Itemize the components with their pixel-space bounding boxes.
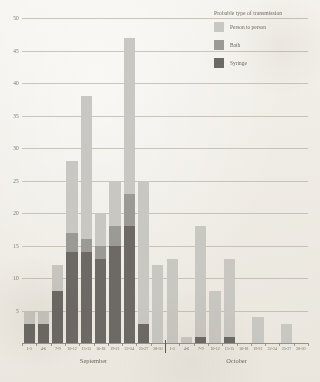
bar[interactable] [152,265,163,343]
bar-segment-bath [66,233,77,253]
x-axis-tick-label: 10-12 [210,346,220,351]
bar-segment-person [109,181,120,227]
bar[interactable] [109,181,120,344]
legend: Probable type of transmission Person to … [214,10,318,76]
bar-segment-syringe [81,252,92,343]
x-axis-tick-label: 10-12 [67,346,77,351]
bar-segment-person [52,265,63,291]
bar[interactable] [167,259,178,344]
y-axis-tick-label: 25 [13,178,19,184]
y-axis-tick-label: 40 [13,80,19,86]
x-axis-tick-label: 7-9 [198,346,203,351]
bar-segment-person [281,324,292,344]
x-axis-tick-label: 22-24 [124,346,134,351]
bar-segment-bath [81,239,92,252]
bar-segment-bath [124,194,135,227]
bar-segment-person [38,311,49,324]
month-group-labels: SeptemberOctober [22,357,308,371]
y-axis-tick-label: 15 [13,243,19,249]
x-axis-tick-label: 4-6 [41,346,46,351]
bar-segment-bath [109,226,120,246]
month-separator [165,340,166,353]
bar-segment-person [138,181,149,324]
bar[interactable] [224,259,235,344]
bar[interactable] [281,324,292,344]
legend-label-person-to-person: Person to person [230,24,266,30]
month-label: October [226,357,247,364]
bar[interactable] [66,161,77,343]
bar[interactable] [195,226,206,343]
legend-item-person-to-person[interactable]: Person to person [214,22,318,32]
bar-segment-syringe [95,259,106,344]
x-axis-tick-label: 1-3 [169,346,174,351]
epidemic-curve-figure: 5101520253035404550 1-34-67-910-1213-151… [0,0,320,382]
bar-segment-person [24,311,35,324]
bar-segment-syringe [109,246,120,344]
x-axis-tick-label: 19-21 [110,346,120,351]
x-axis-tick-label: 16-18 [96,346,106,351]
bar[interactable] [124,38,135,344]
x-axis-tick-label: 25-27 [139,346,149,351]
legend-label-bath: Bath [230,42,240,48]
y-axis-tick-label: 30 [13,145,19,151]
x-axis-tick-label: 19-21 [253,346,263,351]
bar-segment-syringe [38,324,49,344]
x-axis-tick-label: 28-30 [296,346,306,351]
x-axis-tick-label: 13-15 [225,346,235,351]
bar-segment-person [95,213,106,246]
y-axis-tick-label: 10 [13,275,19,281]
bar[interactable] [38,311,49,344]
y-axis-labels: 5101520253035404550 [0,18,22,343]
y-axis-tick-label: 45 [13,48,19,54]
legend-item-syringe[interactable]: Syringe [214,58,318,68]
y-axis-tick-label: 50 [13,15,19,21]
legend-swatch-syringe [214,58,224,68]
x-axis-tick-label: 4-6 [184,346,189,351]
x-axis-tick-label: 22-24 [267,346,277,351]
legend-item-bath[interactable]: Bath [214,40,318,50]
bar-segment-person [124,38,135,194]
bar-segment-person [167,259,178,344]
legend-title: Probable type of transmission [214,10,318,16]
legend-label-syringe: Syringe [230,60,247,66]
bar-segment-syringe [138,324,149,344]
bar-segment-syringe [124,226,135,343]
x-axis-tick [308,343,309,346]
bar-segment-person [81,96,92,239]
bar-segment-person [252,317,263,343]
bar[interactable] [52,265,63,343]
bar-segment-person [209,291,220,343]
legend-swatch-person-to-person [214,22,224,32]
x-axis-tick-label: 25-27 [282,346,292,351]
bar-segment-person [66,161,77,233]
bar[interactable] [81,96,92,343]
bar-segment-person [152,265,163,343]
legend-swatch-bath [214,40,224,50]
bar-segment-bath [95,246,106,259]
bar-segment-syringe [52,291,63,343]
bar[interactable] [138,181,149,344]
y-axis-tick-label: 5 [16,308,19,314]
month-label: September [80,357,107,364]
bar-segment-person [195,226,206,337]
y-axis-tick-label: 20 [13,210,19,216]
bar-segment-person [224,259,235,337]
x-axis-tick-label: 7-9 [55,346,60,351]
x-axis-tick-label: 16-18 [239,346,249,351]
bar-segment-syringe [66,252,77,343]
y-axis-tick-label: 35 [13,113,19,119]
bar[interactable] [95,213,106,343]
x-axis-tick-label: 28-30 [153,346,163,351]
bar-segment-syringe [24,324,35,344]
bar[interactable] [24,311,35,344]
x-axis-tick-label: 13-15 [82,346,92,351]
bar[interactable] [209,291,220,343]
bar[interactable] [252,317,263,343]
x-axis-tick-label: 1-3 [26,346,31,351]
